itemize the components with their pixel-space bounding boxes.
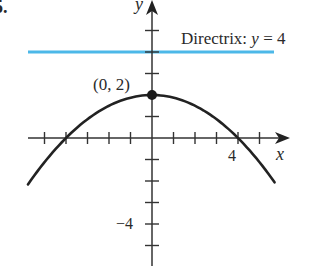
x-tick-label-4: 4 [228, 147, 236, 164]
y-axis-label: y [133, 0, 143, 14]
directrix-label: Directrix: y = 4 [181, 29, 286, 48]
y-tick-label-neg4: −4 [116, 215, 133, 232]
directrix-label-prefix: Directrix: [181, 29, 251, 48]
directrix-label-var: y [249, 29, 259, 48]
directrix-label-suffix: = 4 [259, 29, 286, 48]
parabola-figure: 5. y x 4 −4 (0, 2) Directrix: y = 4 [0, 0, 312, 279]
vertex-point [147, 90, 157, 100]
problem-number: 5. [0, 0, 8, 17]
x-axis-label: x [275, 144, 284, 164]
vertex-label: (0, 2) [93, 75, 130, 94]
y-axis [145, 0, 159, 266]
